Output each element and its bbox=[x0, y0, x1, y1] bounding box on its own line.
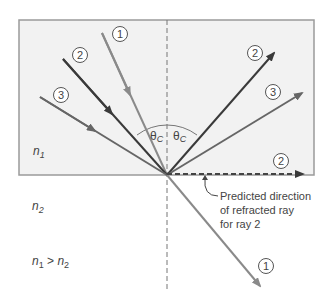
ray-1-label-refracted: 1 bbox=[259, 259, 274, 274]
tir-diagram: 1 2 3 2 3 2 1 θC θC n1 n2 n1 > n2 Predic… bbox=[0, 0, 332, 301]
svg-text:1: 1 bbox=[117, 28, 123, 40]
ray-1-label-top: 1 bbox=[113, 27, 128, 42]
svg-text:3: 3 bbox=[270, 86, 276, 98]
annotation-leader bbox=[205, 178, 218, 196]
svg-text:3: 3 bbox=[58, 89, 64, 101]
ray-2-label-top: 2 bbox=[73, 48, 88, 63]
annotation-line-3: for ray 2 bbox=[220, 218, 260, 230]
ray-2-label-predicted: 2 bbox=[274, 154, 289, 169]
svg-text:2: 2 bbox=[278, 155, 284, 167]
annotation-line-1: Predicted direction bbox=[220, 190, 311, 202]
ray-3-label-reflected: 3 bbox=[266, 85, 281, 100]
medium-n2-label: n2 bbox=[32, 199, 44, 215]
annotation-line-2: of refracted ray bbox=[220, 204, 294, 216]
condition-label: n1 > n2 bbox=[32, 254, 69, 270]
svg-text:1: 1 bbox=[263, 260, 269, 272]
svg-text:2: 2 bbox=[77, 49, 83, 61]
svg-text:2: 2 bbox=[252, 47, 258, 59]
ray-3-label-top: 3 bbox=[54, 88, 69, 103]
ray-2-label-reflected: 2 bbox=[248, 46, 263, 61]
